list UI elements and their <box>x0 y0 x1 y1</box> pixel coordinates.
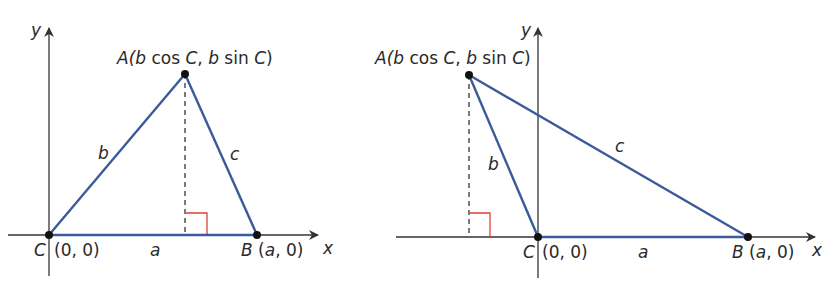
y-axis-label: y <box>520 20 532 40</box>
point-A <box>181 70 189 78</box>
point-C <box>45 231 53 239</box>
x-axis-label: x <box>322 238 334 258</box>
vertex-A-label: A(b cos C, b sin C) <box>116 48 273 68</box>
right-angle-mark <box>185 213 207 235</box>
point-C <box>534 233 542 241</box>
side-c <box>469 75 748 237</box>
diagram-canvas: x y A(b cos C, b sin C) C (0, 0) B (a, 0… <box>0 0 822 297</box>
point-B <box>744 233 752 241</box>
side-b-label: b <box>488 154 499 174</box>
point-A <box>465 71 473 79</box>
vertex-C-label: C <box>523 242 535 262</box>
vertex-C-coords: (0, 0) <box>542 242 588 262</box>
side-b-label: b <box>98 143 109 163</box>
vertex-A-label: A(b cos C, b sin C) <box>374 48 531 68</box>
point-B <box>253 231 261 239</box>
side-a-label: a <box>150 240 160 260</box>
side-c <box>185 74 257 235</box>
vertex-B-label: B (a, 0) <box>732 242 794 262</box>
side-c-label: c <box>230 144 240 164</box>
figure-acute: x y A(b cos C, b sin C) C (0, 0) B (a, 0… <box>8 20 334 276</box>
right-angle-mark <box>469 213 490 237</box>
figure-obtuse: x y A(b cos C, b sin C) C (0, 0) B (a, 0… <box>374 20 822 278</box>
side-a-label: a <box>638 242 648 262</box>
vertex-B-label: B (a, 0) <box>241 240 303 260</box>
vertex-C-label: C <box>34 240 46 260</box>
side-b <box>49 74 185 235</box>
y-axis-label: y <box>30 20 42 40</box>
x-axis-label: x <box>811 240 822 260</box>
vertex-C-coords: (0, 0) <box>54 240 100 260</box>
side-c-label: c <box>615 136 625 156</box>
